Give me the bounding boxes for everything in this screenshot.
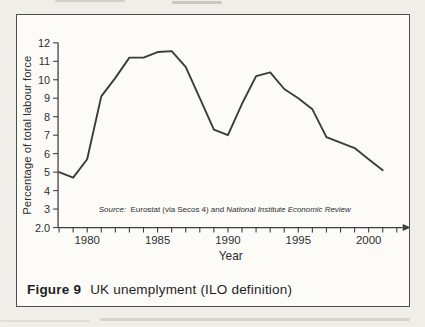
scan-artifact [172, 1, 222, 4]
x-axis-arrow-icon [403, 224, 409, 231]
source-note: Source: Eurostat (via Secos 4) and Natio… [99, 205, 352, 214]
scan-artifact [0, 320, 90, 322]
unemployment-line-chart: 2.0345678910111219801985199019952000Year… [17, 15, 409, 306]
scan-artifact [55, 0, 125, 2]
figure-caption-text: UK unemplyment (ILO definition) [90, 282, 292, 297]
x-tick-label: 1985 [145, 234, 170, 246]
figure-caption-label: Figure 9 [27, 282, 81, 297]
figure-box: 2.0345678910111219801985199019952000Year… [16, 14, 410, 307]
y-tick-label: 5 [44, 166, 50, 178]
y-tick-label: 2.0 [35, 222, 50, 234]
x-tick-label: 2000 [356, 234, 381, 246]
y-tick-label: 12 [38, 37, 50, 49]
x-tick-label: 1990 [215, 234, 240, 246]
x-axis-title: Year [219, 249, 243, 263]
y-tick-label: 4 [44, 185, 50, 197]
scan-artifact [100, 318, 410, 321]
scanned-page: { "page": { "background": "#f0eee8" }, "… [0, 0, 425, 327]
x-tick-label: 1995 [286, 234, 311, 246]
y-tick-label: 8 [44, 111, 50, 123]
x-tick-label: 1980 [75, 234, 100, 246]
figure-caption: Figure 9UK unemplyment (ILO definition) [27, 282, 292, 297]
y-tick-label: 7 [44, 129, 50, 141]
y-tick-label: 3 [44, 203, 50, 215]
y-tick-label: 10 [38, 74, 50, 86]
y-axis-title: Percentage of total labour force [21, 56, 33, 215]
y-tick-label: 11 [39, 55, 50, 67]
unemployment-series-line [59, 51, 383, 178]
y-tick-label: 6 [44, 148, 50, 160]
y-tick-label: 9 [44, 92, 50, 104]
